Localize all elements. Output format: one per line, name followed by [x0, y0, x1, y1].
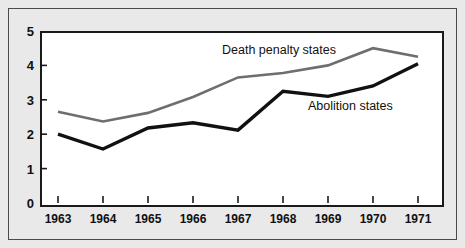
- y-tick-label-1: 1: [8, 163, 34, 176]
- y-tick-label-0: 0: [8, 197, 34, 210]
- chart-screenshot: 5 4 3 2 1 0 1963 1964 1965 1966 1967 196…: [0, 0, 465, 248]
- x-tick-label-1965: 1965: [125, 213, 171, 225]
- x-tick-label-1970: 1970: [350, 213, 396, 225]
- axis-tick-marks: [40, 65, 418, 203]
- x-tick-label-1966: 1966: [170, 213, 216, 225]
- line-death-penalty-states: [58, 48, 418, 121]
- x-tick-label-1969: 1969: [305, 213, 351, 225]
- x-tick-label-1971: 1971: [395, 213, 441, 225]
- x-tick-label-1968: 1968: [260, 213, 306, 225]
- x-tick-label-1963: 1963: [35, 213, 81, 225]
- chart-lines: [40, 31, 440, 203]
- y-tick-label-3: 3: [8, 94, 34, 107]
- y-tick-label-5: 5: [8, 25, 34, 38]
- x-tick-label-1967: 1967: [215, 213, 261, 225]
- y-tick-label-2: 2: [8, 128, 34, 141]
- x-tick-label-1964: 1964: [80, 213, 126, 225]
- y-tick-label-4: 4: [8, 59, 34, 72]
